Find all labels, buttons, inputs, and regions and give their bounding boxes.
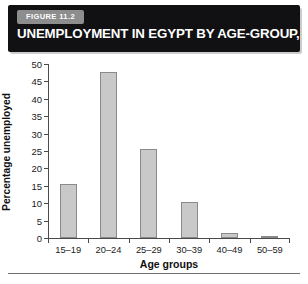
y-tick	[44, 203, 48, 204]
y-tick-label: 40	[31, 93, 42, 104]
y-tick-label: 20	[31, 163, 42, 174]
figure-title: UNEMPLOYMENT IN EGYPT BY AGE-GROUP, 2006	[17, 26, 294, 41]
bar	[140, 149, 157, 238]
x-tick	[88, 239, 89, 243]
bar	[100, 72, 117, 238]
y-tick	[44, 186, 48, 187]
bar	[221, 233, 238, 238]
bottom-divider	[8, 273, 300, 274]
bar	[261, 236, 278, 238]
figure-banner: FIGURE 11.2 UNEMPLOYMENT IN EGYPT BY AGE…	[8, 5, 300, 52]
x-tick-label: 40–49	[217, 245, 243, 255]
x-axis-label: Age groups	[48, 258, 290, 270]
y-tick-label: 50	[31, 59, 42, 70]
y-tick	[44, 168, 48, 169]
y-tick	[44, 64, 48, 65]
figure-number-badge: FIGURE 11.2	[17, 10, 84, 24]
y-tick	[44, 81, 48, 82]
y-tick-label: 0	[37, 233, 42, 244]
x-tick	[129, 239, 130, 243]
bar	[60, 184, 77, 238]
x-tick	[48, 239, 49, 243]
y-tick	[44, 151, 48, 152]
y-tick-label: 35	[31, 111, 42, 122]
x-tick-label: 25–29	[136, 245, 162, 255]
y-tick	[44, 116, 48, 117]
y-tick-label: 30	[31, 128, 42, 139]
y-tick-label: 5	[37, 215, 42, 226]
y-tick-label: 25	[31, 146, 42, 157]
y-tick	[44, 99, 48, 100]
plot-area: 05101520253035404550 15–1920–2425–2930–3…	[48, 64, 290, 239]
bar	[181, 202, 198, 238]
x-tick	[209, 239, 210, 243]
y-axis-label: Percentage unemployed	[1, 93, 12, 211]
y-axis-line	[48, 64, 49, 239]
x-tick-label: 50–59	[257, 245, 283, 255]
bar-chart: Percentage unemployed 051015202530354045…	[0, 55, 308, 260]
y-tick	[44, 221, 48, 222]
y-tick-label: 45	[31, 76, 42, 87]
y-tick-label: 15	[31, 180, 42, 191]
x-tick	[169, 239, 170, 243]
x-tick-label: 30–39	[176, 245, 202, 255]
y-tick-label: 10	[31, 198, 42, 209]
x-tick-label: 20–24	[96, 245, 122, 255]
y-tick	[44, 134, 48, 135]
x-tick	[250, 239, 251, 243]
x-tick	[289, 239, 290, 243]
x-tick-label: 15–19	[55, 245, 81, 255]
